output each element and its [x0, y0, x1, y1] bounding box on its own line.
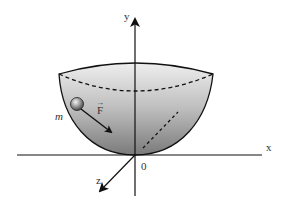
z-axis-label: z	[96, 174, 101, 186]
bowl-diagram: y x z 0 m F →	[0, 0, 287, 213]
x-axis-label: x	[266, 141, 272, 153]
mass-label: m	[55, 110, 63, 122]
z-axis	[100, 155, 135, 191]
y-axis-label: y	[124, 10, 130, 22]
origin-label: 0	[141, 160, 147, 172]
force-vector-arrow: →	[96, 98, 104, 107]
